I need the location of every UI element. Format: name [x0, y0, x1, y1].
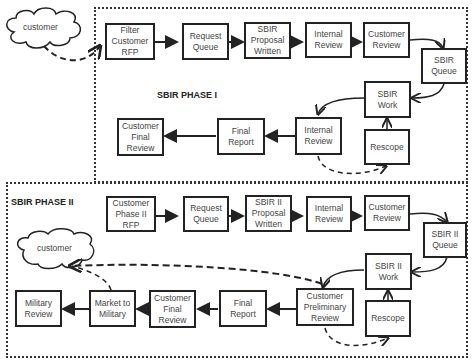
box-sbir-work: SBIR Work	[364, 81, 411, 118]
box-sbir-proposal-written: SBIR Proposal Written	[244, 22, 291, 59]
box-customer-review-1: Customer Review	[363, 22, 410, 58]
box-request-queue-2: Request Queue	[183, 196, 229, 232]
box-customer-final-review-1: Customer Final Review	[117, 118, 164, 156]
box-customer-final-review-2: Customer Final Review	[149, 290, 196, 328]
customer-cloud-phase2: customer	[37, 243, 72, 253]
box-rescope-1: Rescope	[364, 129, 410, 165]
box-request-queue-1: Request Queue	[182, 23, 229, 60]
box-military-review: Military Review	[15, 290, 62, 327]
box-final-report-2: Final Report	[219, 290, 267, 327]
box-filter-customer-rfp: Filter Customer RFP	[105, 23, 155, 60]
box-customer-review-2: Customer Review	[364, 195, 410, 231]
box-internal-review-1b: Internal Review	[295, 117, 342, 155]
box-rescope-2: Rescope	[365, 300, 411, 337]
customer-cloud-phase1: customer	[23, 22, 58, 32]
box-customer-preliminary-review: Customer Preliminary Review	[296, 288, 354, 326]
box-sbir2-work: SBIR II Work	[365, 253, 412, 290]
box-market-to-military: Market to Military	[89, 290, 136, 327]
box-customer-phase2-rfp: Customer Phase II RFP	[106, 196, 156, 232]
box-internal-review-2: Internal Review	[306, 196, 352, 232]
box-sbir-queue: SBIR Queue	[421, 48, 467, 84]
box-sbir2-queue: SBIR II Queue	[423, 222, 467, 258]
box-sbir2-proposal-written: SBIR II Proposal Written	[245, 195, 292, 232]
box-internal-review-1a: Internal Review	[305, 22, 352, 58]
box-final-report-1: Final Report	[217, 118, 265, 155]
